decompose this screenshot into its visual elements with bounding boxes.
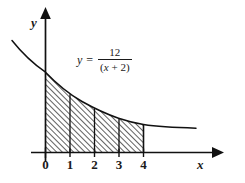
x-axis-label: x <box>197 158 204 171</box>
y-axis-label: y <box>31 16 37 29</box>
equation-lhs: y <box>77 54 86 66</box>
fraction-numerator: 12 <box>106 47 123 59</box>
equation-annotation: y = 12 (x + 2) <box>77 47 132 73</box>
equation-relation: = <box>86 54 98 66</box>
x-tick-label-0: 0 <box>38 158 54 172</box>
denominator-close-paren: ) <box>126 61 130 73</box>
x-tick-label-2: 2 <box>87 158 103 172</box>
denominator-plus-sign: + <box>111 61 117 73</box>
x-tick-label-1: 1 <box>62 158 78 172</box>
equation-fraction: 12 (x + 2) <box>98 47 131 73</box>
function-graph-figure: 0 1 2 3 4 y x y = 12 (x + 2) <box>0 0 245 183</box>
fraction-denominator: (x + 2) <box>98 60 131 73</box>
x-tick-label-4: 4 <box>136 158 152 172</box>
x-tick-label-3: 3 <box>111 158 127 172</box>
denominator-variable: x <box>104 61 109 73</box>
